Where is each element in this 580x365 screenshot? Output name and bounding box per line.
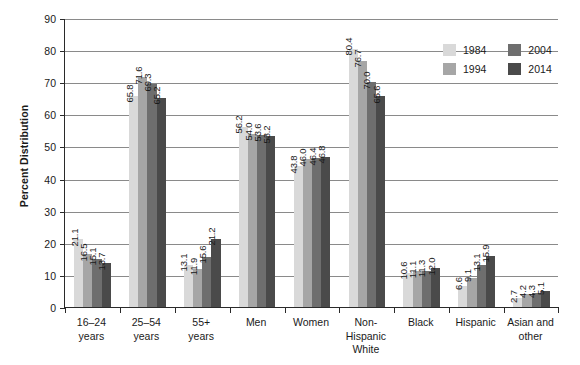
y-tick-label: 40 — [44, 174, 56, 186]
bar-column[interactable]: 54.0 — [248, 19, 257, 307]
legend-swatch-icon — [443, 44, 456, 56]
legend-item[interactable]: 1994 — [443, 63, 486, 75]
bar[interactable] — [266, 136, 275, 307]
y-tick-label: 0 — [50, 302, 56, 314]
y-tick-label: 20 — [44, 238, 56, 250]
bar-column[interactable]: 13.7 — [102, 19, 111, 307]
bar-column[interactable]: 15.6 — [202, 19, 211, 307]
bar[interactable] — [147, 84, 156, 307]
bar-group: 21.116.515.113.7 — [65, 19, 120, 307]
bar-column[interactable]: 65.2 — [157, 19, 166, 307]
bar[interactable] — [467, 278, 476, 307]
bar-cluster: 80.476.770.065.6 — [339, 19, 394, 307]
bar[interactable] — [303, 159, 312, 307]
bar[interactable] — [202, 257, 211, 307]
y-tick-label: 30 — [44, 206, 56, 218]
legend-item[interactable]: 2014 — [508, 63, 551, 75]
bar[interactable] — [349, 49, 358, 307]
bar-value-label: 76.7 — [353, 50, 363, 68]
bar-value-label: 46.8 — [316, 146, 326, 164]
bar-cluster: 56.254.053.653.2 — [230, 19, 285, 307]
bar-column[interactable]: 71.6 — [138, 19, 147, 307]
bar-value-label: 65.8 — [124, 85, 134, 103]
bar[interactable] — [294, 166, 303, 307]
bar-cluster: 43.846.046.446.8 — [285, 19, 340, 307]
bar-column[interactable]: 70.0 — [367, 19, 376, 307]
legend-label: 2004 — [528, 44, 551, 56]
bar-group: 80.476.770.065.6 — [339, 19, 394, 307]
y-tick-label: 50 — [44, 141, 56, 153]
bar[interactable] — [486, 256, 495, 307]
bar-column[interactable]: 53.2 — [266, 19, 275, 307]
x-tick-mark — [449, 307, 450, 313]
bar[interactable] — [257, 135, 266, 307]
bar-value-label: 13.7 — [97, 252, 107, 270]
bar-group: 65.871.669.365.2 — [120, 19, 175, 307]
x-tick-mark — [285, 307, 286, 313]
bar[interactable] — [248, 134, 257, 307]
bar-cluster: 13.111.915.621.2 — [175, 19, 230, 307]
y-axis-title: Percent Distribution — [18, 86, 30, 226]
bar[interactable] — [358, 61, 367, 307]
bar-column[interactable]: 65.6 — [376, 19, 385, 307]
legend-swatch-icon — [508, 63, 521, 75]
legend-item[interactable]: 1984 — [443, 44, 486, 56]
bar-cluster: 65.871.669.365.2 — [120, 19, 175, 307]
legend-item[interactable]: 2004 — [508, 44, 551, 56]
bar-column[interactable]: 56.2 — [239, 19, 248, 307]
bar-value-label: 5.1 — [536, 282, 546, 295]
y-tick-label: 80 — [44, 45, 56, 57]
x-axis-label-line: other — [497, 330, 564, 344]
x-tick-mark — [120, 307, 121, 313]
bar-group: 10.611.111.312.0 — [394, 19, 449, 307]
x-tick-mark — [65, 307, 66, 313]
bar[interactable] — [312, 158, 321, 307]
bar-column[interactable]: 65.8 — [129, 19, 138, 307]
bar[interactable] — [157, 98, 166, 307]
x-axis-labels: 16–24years25–54years55+yearsMenWomenNon-… — [64, 316, 558, 364]
bar[interactable] — [138, 77, 147, 307]
bar-column[interactable]: 69.3 — [147, 19, 156, 307]
x-tick-mark — [175, 307, 176, 313]
x-axis-label-line: Hispanic — [332, 330, 399, 344]
bar-value-label: 65.2 — [152, 87, 162, 105]
bar-cluster: 10.611.111.312.0 — [394, 19, 449, 307]
bar-column[interactable]: 76.7 — [358, 19, 367, 307]
legend-label: 1994 — [463, 63, 486, 75]
bar-value-label: 21.2 — [206, 228, 216, 246]
x-tick-mark — [394, 307, 395, 313]
bar-group: 13.111.915.621.2 — [175, 19, 230, 307]
bar[interactable] — [376, 96, 385, 307]
y-tick-label: 10 — [44, 270, 56, 282]
bar-value-label: 15.9 — [481, 245, 491, 263]
bar[interactable] — [321, 157, 330, 307]
x-axis-label: Asian andother — [497, 316, 564, 343]
bar[interactable] — [239, 127, 248, 307]
bar-column[interactable]: 21.2 — [211, 19, 220, 307]
bar-column[interactable]: 46.8 — [321, 19, 330, 307]
bar-value-label: 15.6 — [197, 246, 207, 264]
bar-column[interactable]: 11.9 — [193, 19, 202, 307]
y-tick-label: 90 — [44, 13, 56, 25]
legend-swatch-icon — [443, 63, 456, 75]
legend-label: 1984 — [463, 44, 486, 56]
bar[interactable] — [129, 96, 138, 307]
bar-column[interactable]: 12.0 — [431, 19, 440, 307]
x-tick-mark — [230, 307, 231, 313]
x-tick-mark — [558, 307, 559, 313]
bar-cluster: 21.116.515.113.7 — [65, 19, 120, 307]
bar-value-label: 53.2 — [261, 125, 271, 143]
x-axis-label-line: Asian and — [497, 316, 564, 330]
legend-label: 2014 — [528, 63, 551, 75]
legend-swatch-icon — [508, 44, 521, 56]
bar-group: 56.254.053.653.2 — [230, 19, 285, 307]
bar[interactable] — [367, 82, 376, 307]
legend: 1984200419942014 — [443, 40, 552, 78]
bar[interactable] — [211, 239, 220, 307]
x-axis-label-line: White — [332, 343, 399, 357]
bar-column[interactable]: 53.6 — [257, 19, 266, 307]
bar-value-label: 12.0 — [426, 257, 436, 275]
x-tick-mark — [504, 307, 505, 313]
bar-column[interactable]: 21.1 — [74, 19, 83, 307]
x-tick-mark — [339, 307, 340, 313]
